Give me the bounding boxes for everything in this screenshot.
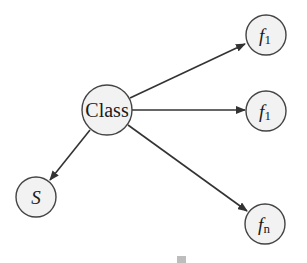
edges	[50, 44, 247, 211]
node-s-label: S	[31, 187, 41, 208]
crop-residue-mark	[177, 256, 186, 263]
diagram-canvas: Class f1 f1 fn S	[0, 0, 307, 263]
node-class: Class	[82, 85, 132, 135]
naive-bayes-graph: Class f1 f1 fn S	[0, 0, 307, 263]
edge-class-to-f1-top	[130, 44, 245, 98]
node-s: S	[16, 177, 56, 217]
node-class-label: Class	[85, 99, 129, 121]
node-f1-top-sub: 1	[264, 32, 271, 47]
node-f1-top: f1	[246, 15, 286, 55]
node-fn-sub: n	[263, 221, 270, 236]
node-fn: fn	[245, 204, 285, 244]
edge-class-to-s	[50, 130, 90, 180]
node-f1-mid: f1	[246, 91, 286, 131]
edge-class-to-fn	[128, 125, 247, 211]
node-f1-mid-sub: 1	[264, 108, 271, 123]
